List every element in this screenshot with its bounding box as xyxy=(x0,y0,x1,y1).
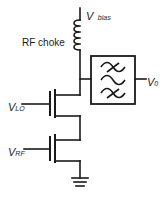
inductor-icon xyxy=(74,20,80,50)
ground-icon xyxy=(72,178,88,186)
circuit-diagram: V bias RF choke V0 VLO VRF xyxy=(0,0,168,199)
vrf-label: VRF xyxy=(8,143,25,159)
schematic xyxy=(0,0,168,199)
vo-label: V0 xyxy=(147,73,158,89)
filter-icon xyxy=(101,63,125,99)
vbias-label: V bias xyxy=(86,7,111,23)
rf-choke-label: RF choke xyxy=(22,38,65,48)
vlo-label: VLO xyxy=(8,98,25,114)
